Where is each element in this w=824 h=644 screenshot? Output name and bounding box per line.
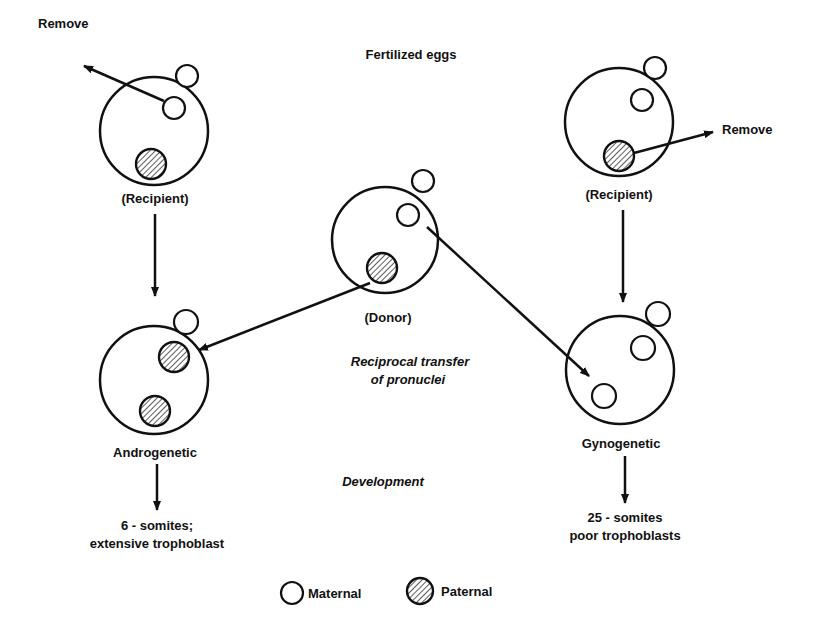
- androgenetic-outcome-1: 6 - somites;: [121, 518, 193, 533]
- paternal-pronucleus-icon: [136, 149, 166, 179]
- reciprocal-transfer-caption-1: Reciprocal transfer: [351, 354, 470, 369]
- right-recipient-egg: Remove (Recipient): [565, 57, 773, 202]
- polar-body-icon: [412, 170, 434, 192]
- maternal-pronucleus-icon: [163, 97, 185, 119]
- remove-label-left: Remove: [38, 16, 89, 31]
- androgenetic-label: Androgenetic: [113, 445, 197, 460]
- gynogenetic-outcome-1: 25 - somites: [587, 510, 662, 525]
- legend-maternal-label: Maternal: [308, 586, 361, 601]
- paternal-pronucleus-icon: [159, 342, 189, 372]
- paternal-pronucleus-icon: [604, 141, 634, 171]
- legend: Maternal Paternal: [281, 578, 492, 604]
- remove-arrow: [634, 132, 713, 153]
- maternal-legend-icon: [281, 582, 303, 604]
- transfer-arrow-paternal: [199, 283, 370, 350]
- donor-label: (Donor): [365, 310, 412, 325]
- development-label: Development: [342, 474, 424, 489]
- maternal-pronucleus-icon: [631, 336, 655, 360]
- polar-body-icon: [176, 65, 198, 87]
- title-fertilized-eggs: Fertilized eggs: [365, 47, 456, 62]
- androgenetic-outcome-2: extensive trophoblast: [90, 536, 225, 551]
- gynogenetic-outcome-2: poor trophoblasts: [569, 528, 680, 543]
- recipient-label-right: (Recipient): [585, 187, 652, 202]
- paternal-pronucleus-icon: [367, 253, 397, 283]
- androgenetic-egg: Androgenetic: [100, 310, 208, 460]
- maternal-pronucleus-icon: [592, 384, 616, 408]
- polar-body-icon: [174, 310, 198, 334]
- legend-paternal-label: Paternal: [441, 584, 492, 599]
- paternal-legend-icon: [407, 578, 433, 604]
- polar-body-icon: [644, 57, 666, 79]
- gynogenetic-egg: Gynogenetic: [566, 302, 674, 451]
- donor-egg: (Donor): [332, 170, 438, 325]
- remove-label-right: Remove: [722, 122, 773, 137]
- recipient-label-left: (Recipient): [121, 191, 188, 206]
- remove-arrow: [84, 66, 164, 101]
- polar-body-icon: [646, 302, 670, 326]
- pronuclear-transfer-diagram: Fertilized eggs Remove (Recipient) Remov…: [0, 0, 824, 644]
- reciprocal-transfer-caption-2: of pronuclei: [371, 372, 446, 387]
- maternal-pronucleus-icon: [631, 89, 653, 111]
- gynogenetic-label: Gynogenetic: [582, 436, 661, 451]
- paternal-pronucleus-icon: [140, 396, 170, 426]
- maternal-pronucleus-icon: [397, 204, 419, 226]
- left-recipient-egg: Remove (Recipient): [38, 16, 208, 206]
